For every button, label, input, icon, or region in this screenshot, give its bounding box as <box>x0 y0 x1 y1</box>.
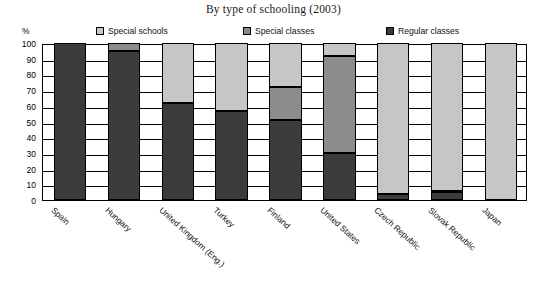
legend-item-special-schools: Special schools <box>96 25 168 37</box>
bar-segment <box>431 43 463 191</box>
legend-swatch-regular-classes-icon <box>386 27 394 35</box>
bar-segment <box>54 43 86 200</box>
bar-segment <box>377 43 409 194</box>
y-tick-label: 0 <box>31 197 36 206</box>
x-tick-label: Finland <box>265 205 292 231</box>
bar-segment <box>485 43 517 200</box>
x-tick-label: Slovak Republic <box>427 205 478 253</box>
x-tick-label: Czech Republic <box>373 205 423 252</box>
plot-area <box>42 44 527 201</box>
x-tick-label: Spain <box>49 205 72 227</box>
y-tick-label: 30 <box>27 150 36 159</box>
y-tick-label: 40 <box>27 134 36 143</box>
bar-segment <box>323 56 355 153</box>
legend-label-special-classes: Special classes <box>255 26 314 36</box>
y-tick-label: 80 <box>27 71 36 80</box>
chart-legend: Special schools Special classes Regular … <box>96 25 516 37</box>
bar-segment <box>323 43 355 56</box>
y-tick-label: 70 <box>27 87 36 96</box>
x-tick-label: Turkey <box>211 205 236 229</box>
y-tick-label: 60 <box>27 103 36 112</box>
legend-label-regular-classes: Regular classes <box>398 26 459 36</box>
bar-segment <box>269 43 301 87</box>
y-axis-tick-labels: 1009080706050403020100 <box>0 38 40 208</box>
bar-united-kingdom-eng[interactable] <box>162 45 194 200</box>
bar-segment <box>431 192 463 200</box>
bar-japan[interactable] <box>485 45 517 200</box>
bar-segment <box>162 43 194 103</box>
bar-segment <box>269 87 301 120</box>
bar-segment <box>162 103 194 200</box>
bar-turkey[interactable] <box>215 45 247 200</box>
bar-segment <box>215 43 247 111</box>
legend-item-special-classes: Special classes <box>243 25 314 37</box>
bar-segment <box>215 111 247 200</box>
bar-segment <box>108 43 140 51</box>
bar-segment <box>323 153 355 200</box>
x-tick-label: United States <box>319 205 363 246</box>
chart-figure: By type of schooling (2003) Special scho… <box>0 0 547 292</box>
bar-segment <box>377 194 409 200</box>
bar-slovak-republic[interactable] <box>431 45 463 200</box>
x-tick-label: Hungary <box>103 205 133 234</box>
legend-swatch-special-classes-icon <box>243 27 251 35</box>
y-tick-label: 20 <box>27 166 36 175</box>
chart-title: By type of schooling (2003) <box>0 3 547 15</box>
legend-swatch-special-schools-icon <box>96 27 104 35</box>
y-tick-label: 90 <box>27 56 36 65</box>
bar-segment <box>269 120 301 200</box>
bar-czech-republic[interactable] <box>377 45 409 200</box>
bar-spain[interactable] <box>54 45 86 200</box>
y-axis-unit-label: % <box>22 26 30 36</box>
bar-series-container <box>43 45 526 200</box>
bar-hungary[interactable] <box>108 45 140 200</box>
bar-united-states[interactable] <box>323 45 355 200</box>
x-tick-label: Japan <box>480 205 504 228</box>
x-axis-tick-labels: SpainHungaryUnited Kingdom (Eng.)TurkeyF… <box>42 201 527 291</box>
legend-item-regular-classes: Regular classes <box>386 25 459 37</box>
y-tick-label: 100 <box>22 40 36 49</box>
y-tick-label: 10 <box>27 181 36 190</box>
y-tick-label: 50 <box>27 119 36 128</box>
bar-segment <box>108 51 140 200</box>
bar-finland[interactable] <box>269 45 301 200</box>
legend-label-special-schools: Special schools <box>108 26 168 36</box>
